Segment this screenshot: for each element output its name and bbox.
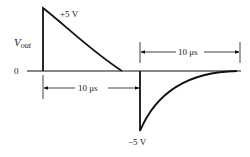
negative-pulse-curve bbox=[140, 71, 237, 131]
y-axis-label: Vout bbox=[14, 36, 32, 50]
dimension-bottom-label: 10 μs bbox=[78, 83, 98, 93]
waveform-diagram: Vout 0 +5 V −5 V 10 μs 10 μs bbox=[0, 0, 250, 157]
zero-label: 0 bbox=[14, 66, 19, 76]
dimension-top-label: 10 μs bbox=[178, 47, 198, 57]
positive-peak-label: +5 V bbox=[60, 9, 79, 19]
positive-pulse-curve bbox=[43, 8, 122, 71]
negative-peak-label: −5 V bbox=[128, 137, 147, 147]
